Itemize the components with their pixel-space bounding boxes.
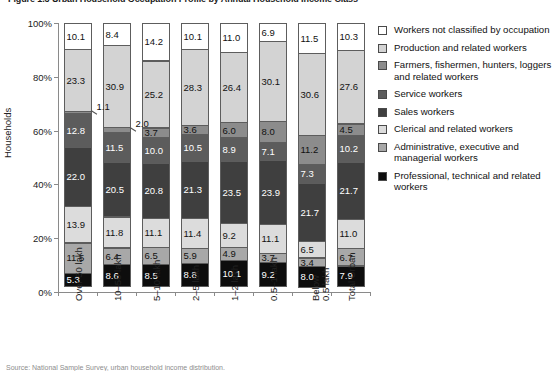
bar-segment[interactable]: 11.5 — [103, 132, 131, 163]
bar-segment-value-label: 26.4 — [221, 83, 242, 93]
bar-segment-value-label: 22.0 — [65, 172, 86, 182]
legend-item[interactable]: Clerical and related workers — [378, 123, 553, 135]
x-axis-category-label: 5–10 lakh — [152, 260, 162, 301]
bar-segment[interactable]: 30.6 — [298, 53, 326, 135]
bar-column[interactable]: 11.530.611.27.321.76.53.48.0 — [298, 23, 326, 292]
legend-item[interactable]: Workers not classified by occupation — [378, 24, 553, 36]
bar-segment-value-label: 11.4 — [182, 229, 202, 239]
bar-segment[interactable]: 11.1 — [259, 224, 287, 254]
bar-segment[interactable]: 30.1 — [259, 41, 287, 122]
bar-segment[interactable]: 4.9 — [220, 247, 248, 260]
bar-segment-value-label: 10.3 — [338, 32, 359, 42]
legend-item[interactable]: Administrative, executive and managerial… — [378, 141, 553, 164]
bar-column[interactable]: 14.225.23.710.020.811.16.58.5 — [142, 23, 170, 292]
x-axis-tick-mark — [331, 292, 332, 296]
bar-segment-value-label: 20.5 — [104, 185, 125, 195]
bar-segment[interactable]: 10.0 — [142, 137, 170, 164]
legend-label: Workers not classified by occupation — [394, 24, 550, 36]
bar-segment[interactable]: 12.8 — [64, 114, 92, 148]
x-axis-category-label-line: 5–10 lakh — [152, 260, 162, 301]
bar-segment[interactable]: 30.9 — [103, 45, 131, 128]
bar-column[interactable]: 6.930.18.07.123.911.13.79.2 — [259, 23, 287, 292]
bar-segment-value-label: 11.0 — [338, 229, 358, 239]
legend-label: Professional, technical and related work… — [394, 170, 553, 193]
bar-segment[interactable]: 22.0 — [64, 147, 92, 206]
bar-segment[interactable]: 10.2 — [337, 135, 365, 162]
bar-segment[interactable]: 23.5 — [220, 161, 248, 224]
bar-segment[interactable]: 4.5 — [337, 124, 365, 136]
bar-segment[interactable]: 11.5 — [298, 23, 326, 54]
bar-segment-value-label: 25.2 — [143, 90, 164, 100]
legend-item[interactable]: Sales workers — [378, 106, 553, 118]
x-axis-tick-mark — [58, 292, 59, 296]
x-axis-tick-mark — [370, 292, 371, 296]
bar-segment[interactable]: 21.3 — [181, 161, 209, 218]
legend-swatch-icon — [378, 26, 387, 35]
legend-item[interactable]: Farmers, fishermen, hunters, loggers and… — [378, 59, 553, 82]
bar-segment[interactable]: 11.0 — [337, 219, 365, 249]
bar-segment[interactable]: 6.5 — [298, 241, 326, 258]
bar-segment-value-label: 20.8 — [143, 186, 164, 196]
plot-area: 1.110.123.312.822.013.911.55.32.08.430.9… — [58, 23, 370, 292]
source-note: Source: National Sample Survey, urban ho… — [6, 364, 225, 371]
bar-segment[interactable]: 10.1 — [64, 23, 92, 50]
bar-segment[interactable]: 8.9 — [220, 138, 248, 162]
bar-segment[interactable]: 21.7 — [337, 162, 365, 220]
bar-segment-value-label: 11.2 — [299, 145, 319, 155]
bar-segment-value-label: 14.2 — [143, 37, 164, 47]
bar-segment-value-label: 8.4 — [104, 30, 119, 40]
bar-segment[interactable]: 5.9 — [181, 248, 209, 264]
bar-segment-value-label: 5.9 — [182, 251, 197, 261]
bar-segment-value-label: 11.1 — [260, 234, 280, 244]
bar-segment[interactable]: 11.8 — [103, 217, 131, 249]
legend-label: Clerical and related workers — [394, 123, 513, 135]
bar-segment-value-label: 27.6 — [338, 82, 359, 92]
legend-item[interactable]: Production and related workers — [378, 42, 553, 54]
x-axis-category-label-line: Over 50 lakh — [74, 247, 84, 301]
bar-segment[interactable]: 7.1 — [259, 142, 287, 161]
bar-segment[interactable]: 23.3 — [64, 49, 92, 112]
legend-item[interactable]: Service workers — [378, 88, 553, 100]
legend-item[interactable]: Professional, technical and related work… — [378, 170, 553, 193]
y-axis-tick-label: 60% — [33, 125, 52, 136]
bar-segment[interactable]: 20.8 — [142, 163, 170, 219]
bar-segment[interactable]: 11.0 — [220, 23, 248, 53]
x-axis-tick-mark — [292, 292, 293, 296]
bar-segment[interactable]: 8.0 — [259, 121, 287, 143]
bar-segment[interactable]: 10.3 — [337, 23, 365, 51]
bar-column[interactable]: 8.430.911.520.511.86.48.6 — [103, 23, 131, 292]
bar-segment[interactable]: 11.1 — [142, 218, 170, 248]
bar-segment[interactable]: 6.9 — [259, 23, 287, 42]
bar-segment[interactable]: 27.6 — [337, 50, 365, 124]
bar-segment[interactable]: 8.4 — [103, 23, 131, 46]
bar-segment[interactable]: 20.5 — [103, 162, 131, 217]
bar-segment[interactable]: 7.3 — [298, 164, 326, 184]
x-axis-category-label: Over 50 lakh — [74, 247, 84, 301]
bar-segment[interactable]: 9.2 — [220, 223, 248, 248]
bar-segment-value-label: 4.5 — [338, 125, 353, 135]
bar-segment-value-label: 11.5 — [299, 34, 319, 44]
bar-segment[interactable]: 11.4 — [181, 218, 209, 249]
bar-segment-value-label: 6.5 — [299, 245, 314, 255]
bar-segment[interactable]: 6.0 — [220, 122, 248, 138]
bar-segment[interactable]: 13.9 — [64, 206, 92, 243]
legend-swatch-icon — [378, 172, 387, 181]
legend-swatch-icon — [378, 143, 387, 152]
bar-column[interactable]: 11.026.46.08.923.59.24.910.1 — [220, 23, 248, 292]
legend-label: Sales workers — [394, 106, 454, 118]
bar-segment[interactable]: 14.2 — [142, 23, 170, 61]
bar-segment[interactable]: 21.7 — [298, 183, 326, 241]
x-axis-category-label-line: 0.5 lakh — [321, 268, 331, 301]
x-axis-tick-mark — [136, 292, 137, 296]
bar-segment-value-label: 7.3 — [299, 169, 314, 179]
bar-segment[interactable]: 28.3 — [181, 49, 209, 125]
bar-segment-value-label: 10.2 — [338, 144, 359, 154]
bar-segment[interactable]: 10.5 — [181, 134, 209, 162]
bar-segment[interactable]: 23.9 — [259, 160, 287, 224]
bar-column[interactable]: 10.128.33.610.521.311.45.98.8 — [181, 23, 209, 292]
bar-segment[interactable]: 11.2 — [298, 135, 326, 165]
bar-segment[interactable]: 26.4 — [220, 52, 248, 123]
bar-segment[interactable]: 10.1 — [181, 23, 209, 50]
bar-segment-value-label: 9.2 — [221, 231, 236, 241]
